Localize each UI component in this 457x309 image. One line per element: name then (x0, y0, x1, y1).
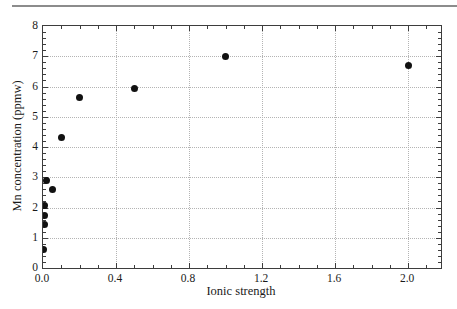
y-tick-mark (43, 32, 46, 33)
gridline-horizontal (43, 208, 441, 209)
y-tick-mark (43, 38, 46, 39)
y-tick-mark (43, 141, 46, 142)
y-tick-mark (438, 232, 441, 233)
y-tick-mark (436, 147, 441, 148)
y-tick-mark (43, 44, 46, 45)
y-tick-mark (438, 74, 441, 75)
gridline-horizontal (43, 147, 441, 148)
y-tick-mark (43, 135, 46, 136)
x-tick-mark (226, 265, 227, 268)
y-tick-mark (43, 123, 46, 124)
y-tick-mark (438, 38, 441, 39)
x-tick-mark (299, 26, 300, 29)
x-tick-mark (244, 26, 245, 29)
x-tick-mark (390, 265, 391, 268)
y-tick-mark (43, 105, 46, 106)
x-tick-mark (171, 265, 172, 268)
x-tick-mark (372, 26, 373, 29)
y-tick-mark (43, 238, 48, 239)
x-tick-mark (244, 265, 245, 268)
y-tick-mark (43, 195, 46, 196)
y-tick-mark (43, 68, 46, 69)
y-tick-mark (438, 68, 441, 69)
data-point (58, 134, 65, 141)
y-tick-mark (438, 135, 441, 136)
x-tick-mark (262, 26, 263, 31)
x-tick-mark (317, 26, 318, 29)
y-tick-mark (43, 87, 48, 88)
x-tick-label: 0.4 (100, 272, 130, 284)
gridline-horizontal (43, 117, 441, 118)
x-tick-mark (390, 26, 391, 29)
y-tick-mark (436, 117, 441, 118)
scatter-chart: Ionic strength Mn concentration (ppmw) 0… (0, 0, 457, 309)
y-tick-mark (438, 250, 441, 251)
x-tick-label: 0.8 (173, 272, 203, 284)
x-tick-label: 1.6 (319, 272, 349, 284)
x-tick-mark (299, 265, 300, 268)
y-tick-mark (43, 244, 46, 245)
data-point (131, 85, 138, 92)
plot-area (42, 25, 442, 269)
y-tick-mark (436, 238, 441, 239)
x-tick-mark (207, 265, 208, 268)
x-tick-mark (335, 263, 336, 268)
y-tick-mark (43, 129, 46, 130)
y-tick-mark (438, 129, 441, 130)
x-tick-mark (153, 265, 154, 268)
data-point (42, 246, 47, 253)
y-tick-mark (43, 74, 46, 75)
gridline-horizontal (43, 87, 441, 88)
y-tick-label: 1 (14, 231, 38, 243)
x-tick-mark (134, 26, 135, 29)
y-tick-mark (438, 244, 441, 245)
x-tick-mark (226, 26, 227, 29)
x-tick-mark (61, 26, 62, 29)
x-tick-mark (61, 265, 62, 268)
y-tick-mark (438, 189, 441, 190)
y-tick-mark (438, 214, 441, 215)
x-tick-mark (98, 26, 99, 29)
data-point (76, 94, 83, 101)
x-tick-mark (116, 263, 117, 268)
y-tick-mark (43, 80, 46, 81)
y-tick-label: 4 (14, 140, 38, 152)
y-tick-mark (43, 147, 48, 148)
y-tick-label: 5 (14, 110, 38, 122)
y-tick-mark (438, 195, 441, 196)
data-point (42, 221, 48, 228)
y-tick-mark (438, 165, 441, 166)
y-tick-mark (438, 201, 441, 202)
x-tick-mark (134, 265, 135, 268)
y-tick-mark (43, 50, 46, 51)
data-point (49, 186, 56, 193)
y-tick-mark (436, 87, 441, 88)
data-point (42, 212, 48, 219)
x-tick-mark (80, 26, 81, 29)
x-tick-label: 1.2 (246, 272, 276, 284)
y-tick-mark (43, 153, 46, 154)
y-tick-label: 8 (14, 19, 38, 31)
y-tick-mark (438, 80, 441, 81)
x-tick-mark (426, 265, 427, 268)
x-tick-mark (189, 26, 190, 31)
y-tick-mark (43, 159, 46, 160)
x-tick-mark (335, 26, 336, 31)
gridline-horizontal (43, 56, 441, 57)
x-tick-mark (207, 26, 208, 29)
y-tick-mark (436, 56, 441, 57)
data-point (405, 62, 412, 69)
x-tick-mark (280, 265, 281, 268)
y-tick-mark (43, 165, 46, 166)
gridline-horizontal (43, 177, 441, 178)
figure-page: Ionic strength Mn concentration (ppmw) 0… (0, 0, 457, 309)
x-tick-mark (189, 263, 190, 268)
y-tick-mark (438, 220, 441, 221)
y-tick-mark (438, 32, 441, 33)
x-tick-mark (408, 263, 409, 268)
y-tick-mark (43, 189, 46, 190)
y-tick-mark (438, 226, 441, 227)
y-tick-mark (43, 256, 46, 257)
y-tick-mark (438, 44, 441, 45)
y-tick-mark (43, 262, 46, 263)
